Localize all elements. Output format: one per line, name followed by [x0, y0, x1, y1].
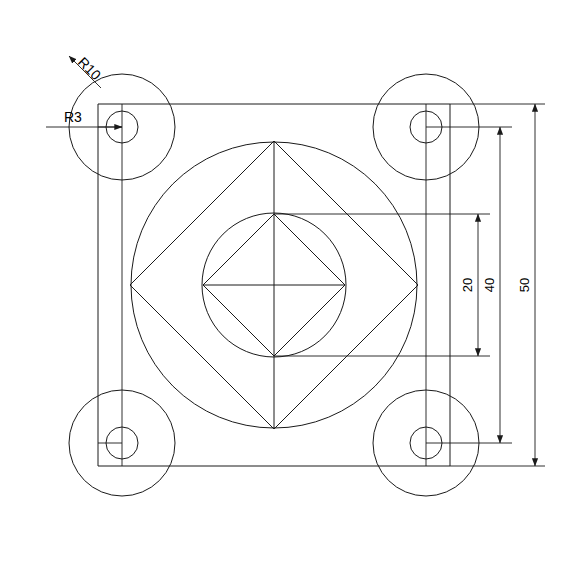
radius-leader-r3-label: R3	[64, 109, 82, 125]
dimension-20-label: 20	[460, 278, 475, 292]
dimension-50-label: 50	[517, 278, 532, 292]
radius-leader-r3: R3	[46, 109, 122, 127]
cad-drawing-svg: 20 40 50 R10 R3	[0, 0, 578, 570]
dimension-20: 20	[460, 214, 478, 356]
radius-leader-r10: R10	[69, 54, 104, 88]
center-construction-lines	[203, 141, 345, 429]
technical-drawing-canvas: 20 40 50 R10 R3	[0, 0, 578, 570]
dimension-50: 50	[517, 104, 535, 466]
dimension-40: 40	[482, 127, 500, 443]
dimension-40-label: 40	[482, 278, 497, 292]
